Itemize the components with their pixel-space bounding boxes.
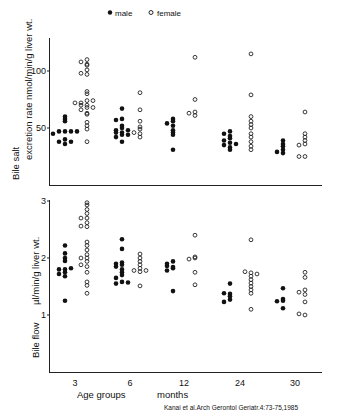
female-data-point	[303, 270, 307, 274]
female-data-point	[85, 212, 89, 216]
female-data-point	[138, 108, 142, 112]
female-data-point	[85, 225, 89, 229]
male-data-point	[120, 117, 125, 122]
female-data-point	[193, 270, 197, 274]
male-data-point	[63, 251, 68, 256]
bottom-ylabel-unit: µl/min/g liver wt.	[30, 237, 41, 305]
female-data-point	[91, 99, 95, 103]
male-data-point	[281, 286, 286, 291]
male-data-point	[63, 114, 68, 119]
male-data-point	[171, 133, 176, 138]
male-data-point	[222, 291, 227, 296]
male-data-point	[228, 297, 233, 302]
female-data-point	[79, 216, 83, 220]
male-data-point	[120, 273, 125, 278]
male-data-point	[120, 133, 125, 138]
male-data-point	[234, 142, 239, 147]
female-data-point	[297, 290, 301, 294]
bottom-tick-3: 3	[41, 196, 46, 206]
male-data-point	[228, 147, 233, 152]
xlabel-months: months	[157, 389, 188, 400]
female-data-point	[249, 307, 253, 311]
female-data-point	[187, 111, 191, 115]
male-data-point	[69, 129, 74, 134]
male-data-point	[171, 119, 176, 124]
male-data-point	[120, 247, 125, 252]
female-data-point	[73, 101, 77, 105]
female-data-point	[132, 269, 136, 273]
female-data-point	[249, 238, 253, 242]
female-data-point	[297, 312, 301, 316]
female-data-point	[249, 140, 253, 144]
female-data-point	[297, 155, 301, 159]
male-data-point	[120, 106, 125, 111]
female-data-point	[243, 270, 247, 274]
male-data-point	[63, 299, 68, 304]
female-data-point	[138, 252, 142, 256]
male-data-point	[222, 300, 227, 305]
male-data-point	[114, 261, 119, 266]
male-data-point	[114, 276, 119, 281]
female-data-point	[193, 98, 197, 102]
male-data-point	[114, 135, 119, 140]
female-data-point	[138, 284, 142, 288]
male-data-point	[120, 237, 125, 242]
male-data-point	[69, 139, 74, 144]
female-data-point	[249, 52, 253, 56]
female-data-point	[85, 291, 89, 295]
male-data-point	[228, 129, 233, 134]
x-tick-6: 6	[127, 378, 132, 388]
female-data-point	[85, 68, 89, 72]
female-data-point	[85, 216, 89, 220]
female-data-point	[79, 263, 83, 267]
female-data-point	[79, 71, 83, 75]
legend: male female	[108, 9, 182, 18]
male-data-point	[126, 128, 131, 133]
female-data-point	[303, 155, 307, 159]
male-data-point	[114, 281, 119, 286]
male-data-point	[63, 259, 68, 264]
female-data-point	[79, 224, 83, 228]
female-data-point	[85, 265, 89, 269]
female-data-point	[144, 269, 148, 273]
male-data-point	[222, 143, 227, 148]
male-data-point	[51, 131, 56, 136]
top-panel-axes: 100 50 Bile salt excretion rate nmol/min…	[10, 19, 322, 186]
top-ylabel-line2: excretion rate	[23, 102, 34, 160]
female-data-point	[297, 143, 301, 147]
female-data-point	[91, 106, 95, 110]
male-data-point	[120, 139, 125, 144]
female-data-point	[138, 91, 142, 95]
x-tick-30: 30	[290, 378, 300, 388]
male-data-point	[222, 131, 227, 136]
male-data-point	[275, 150, 280, 155]
male-data-point	[69, 266, 74, 271]
male-data-point	[63, 129, 68, 134]
male-data-point	[165, 264, 170, 269]
x-tick-12: 12	[179, 378, 189, 388]
male-data-point	[114, 130, 119, 135]
male-data-point	[281, 297, 286, 302]
male-data-point	[165, 268, 170, 273]
female-data-point	[255, 272, 259, 276]
female-data-point	[303, 313, 307, 317]
citation: Kanai et al.Arch Gerontol Geriatr.4:73-7…	[164, 404, 298, 411]
top-ylabel-line1: Bile salt	[10, 146, 21, 180]
female-data-point	[132, 131, 136, 135]
male-data-point	[126, 280, 131, 285]
scatter-plots: male female 100 50 Bile salt excretion r…	[0, 0, 338, 413]
male-data-point	[63, 137, 68, 142]
male-data-point	[63, 243, 68, 248]
male-data-point	[126, 133, 131, 138]
female-data-point	[79, 60, 83, 64]
female-data-point	[79, 108, 83, 112]
female-data-point	[138, 119, 142, 123]
female-data-point	[85, 248, 89, 252]
male-data-point	[171, 147, 176, 152]
female-data-point	[193, 55, 197, 59]
female-data-point	[249, 93, 253, 97]
male-data-point	[63, 274, 68, 279]
female-data-point	[303, 110, 307, 114]
male-data-point	[114, 118, 119, 123]
male-data-point	[120, 263, 125, 268]
